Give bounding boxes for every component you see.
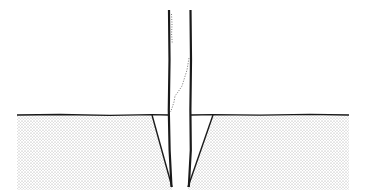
post-ground-cross-section xyxy=(0,0,365,193)
right-ground-surface-line xyxy=(191,114,349,115)
right-ground-fill xyxy=(188,115,349,190)
left-ground-surface-line xyxy=(17,115,169,116)
left-post-texture xyxy=(172,14,173,44)
left-ground-fill xyxy=(17,115,172,190)
diagram-canvas xyxy=(0,0,365,193)
left-post xyxy=(169,10,172,187)
right-post xyxy=(189,10,191,187)
crack-trace xyxy=(171,58,190,112)
